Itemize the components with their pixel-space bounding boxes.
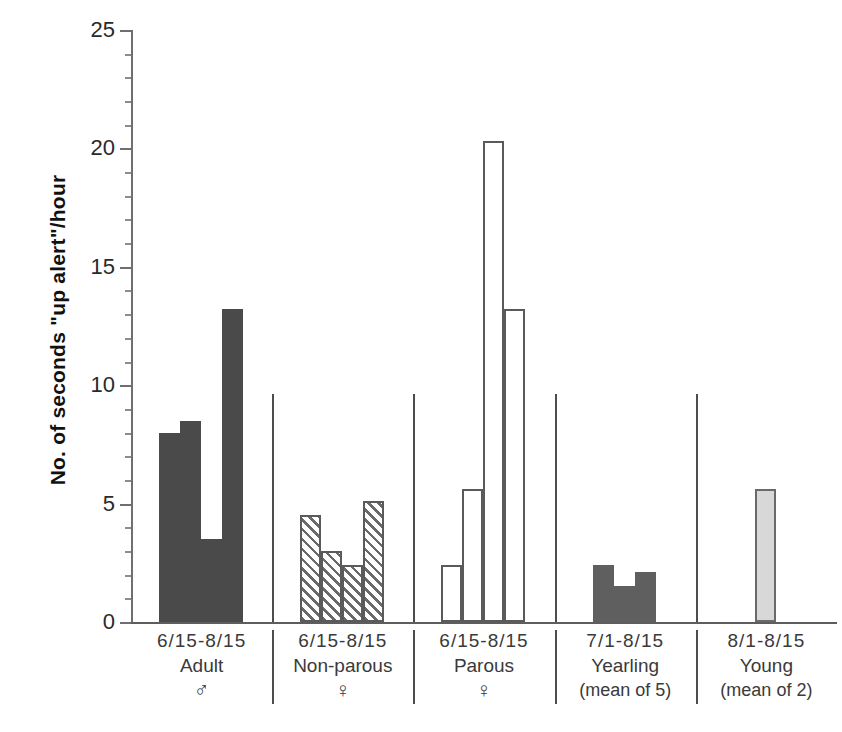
bar: [222, 309, 243, 622]
y-tick-minor: [125, 362, 131, 364]
y-tick-minor: [125, 219, 131, 221]
group-sex-symbol: ♂: [131, 678, 272, 701]
bar: [300, 515, 321, 622]
y-tick-minor: [125, 551, 131, 553]
y-tick-minor: [125, 338, 131, 340]
x-group-caption: 6/15-8/15Parous♀: [413, 628, 554, 701]
y-tick-major: [120, 148, 131, 150]
bar: [441, 565, 462, 622]
x-group-caption: 6/15-8/15Non-parous♀: [272, 628, 413, 701]
group-date-range: 6/15-8/15: [131, 628, 272, 653]
group-sample-note: (mean of 2): [696, 678, 837, 703]
group-separator: [413, 394, 415, 622]
y-tick-minor: [125, 575, 131, 577]
y-tick-minor: [125, 456, 131, 458]
y-tick-label: 0: [103, 609, 115, 635]
chart-figure: No. of seconds "up alert"/hour 051015202…: [0, 0, 842, 732]
group-separator: [555, 394, 557, 622]
bar: [201, 539, 222, 622]
x-group-caption: 8/1-8/15Young(mean of 2): [696, 628, 837, 703]
bar: [363, 501, 384, 622]
y-tick-label: 20: [91, 135, 115, 161]
bar: [180, 421, 201, 622]
y-tick-minor: [125, 125, 131, 127]
x-axis-group-captions: 6/15-8/15Adult♂6/15-8/15Non-parous♀6/15-…: [131, 628, 837, 732]
group-sex-symbol: ♀: [413, 678, 554, 701]
y-tick-major: [120, 622, 131, 624]
group-name: Adult: [131, 653, 272, 678]
y-tick-minor: [125, 433, 131, 435]
x-group-caption: 6/15-8/15Adult♂: [131, 628, 272, 701]
y-tick-minor: [125, 77, 131, 79]
y-tick-minor: [125, 243, 131, 245]
y-tick-major: [120, 504, 131, 506]
plot-area: 0510152025: [131, 30, 837, 622]
group-sample-note: (mean of 5): [555, 678, 696, 703]
bar: [635, 572, 656, 622]
y-tick-minor: [125, 101, 131, 103]
y-tick-minor: [125, 409, 131, 411]
bar: [159, 433, 180, 622]
y-tick-minor: [125, 290, 131, 292]
bar: [483, 141, 504, 622]
bar: [462, 489, 483, 622]
bar: [593, 565, 614, 622]
y-axis-title: No. of seconds "up alert"/hour: [46, 130, 70, 530]
bar: [614, 586, 635, 622]
group-date-range: 6/15-8/15: [413, 628, 554, 653]
y-tick-label: 5: [103, 491, 115, 517]
group-name: Young: [696, 653, 837, 678]
y-tick-minor: [125, 172, 131, 174]
y-tick-minor: [125, 54, 131, 56]
group-separator: [696, 394, 698, 622]
y-tick-minor: [125, 527, 131, 529]
y-tick-minor: [125, 598, 131, 600]
y-tick-major: [120, 30, 131, 32]
group-date-range: 6/15-8/15: [272, 628, 413, 653]
y-tick-minor: [125, 314, 131, 316]
bar: [504, 309, 525, 622]
y-tick-major: [120, 267, 131, 269]
group-name: Non-parous: [272, 653, 413, 678]
y-tick-major: [120, 385, 131, 387]
y-tick-label: 15: [91, 254, 115, 280]
x-axis-line: [131, 622, 837, 624]
group-name: Yearling: [555, 653, 696, 678]
x-group-caption: 7/1-8/15Yearling(mean of 5): [555, 628, 696, 703]
group-name: Parous: [413, 653, 554, 678]
y-tick-minor: [125, 480, 131, 482]
group-sex-symbol: ♀: [272, 678, 413, 701]
bar: [342, 565, 363, 622]
group-date-range: 8/1-8/15: [696, 628, 837, 653]
y-tick-label: 10: [91, 372, 115, 398]
y-axis-line: [131, 30, 133, 622]
bar: [321, 551, 342, 622]
y-tick-minor: [125, 196, 131, 198]
group-date-range: 7/1-8/15: [555, 628, 696, 653]
bar: [755, 489, 776, 622]
group-separator: [272, 394, 274, 622]
y-tick-label: 25: [91, 17, 115, 43]
